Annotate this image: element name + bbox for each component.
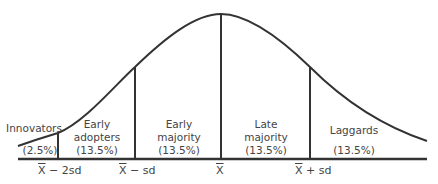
laggards-name: Laggards	[330, 124, 378, 136]
early-majority-line2: majority	[140, 131, 218, 144]
axis-label-mean-minus-sd: X − sd	[119, 164, 155, 177]
segment-innovators-label: Innovators	[4, 122, 64, 135]
axis-label-mean: X	[216, 164, 224, 177]
early-majority-line1: Early	[140, 118, 218, 131]
innovators-percent: (2.5%)	[23, 144, 58, 156]
mean-symbol: X	[216, 164, 224, 177]
early-majority-percent: (13.5%)	[140, 144, 218, 157]
segment-laggards-percent: (13.5%)	[322, 144, 386, 157]
mean-symbol: X	[38, 164, 46, 177]
early-adopters-percent: (13.5%)	[62, 144, 132, 157]
late-majority-line2: majority	[226, 131, 306, 144]
early-adopters-line1: Early	[62, 118, 132, 131]
mean-symbol: X	[119, 164, 127, 177]
segment-innovators-percent: (2.5%)	[22, 144, 58, 157]
segment-late-majority-label: Late majority (13.5%)	[226, 118, 306, 157]
axis-label-mean-minus-2sd: X − 2sd	[38, 164, 81, 177]
offset-text: + sd	[303, 164, 332, 177]
laggards-percent: (13.5%)	[333, 144, 375, 156]
late-majority-line1: Late	[226, 118, 306, 131]
axis-label-mean-plus-sd: X + sd	[295, 164, 331, 177]
late-majority-percent: (13.5%)	[226, 144, 306, 157]
segment-laggards-label: Laggards	[322, 124, 386, 137]
segment-early-majority-label: Early majority (13.5%)	[140, 118, 218, 157]
segment-early-adopters-label: Early adopters (13.5%)	[62, 118, 132, 157]
offset-text: − sd	[127, 164, 156, 177]
innovators-name: Innovators	[6, 122, 62, 134]
offset-text: − 2sd	[46, 164, 82, 177]
early-adopters-line2: adopters	[62, 131, 132, 144]
mean-symbol: X	[295, 164, 303, 177]
